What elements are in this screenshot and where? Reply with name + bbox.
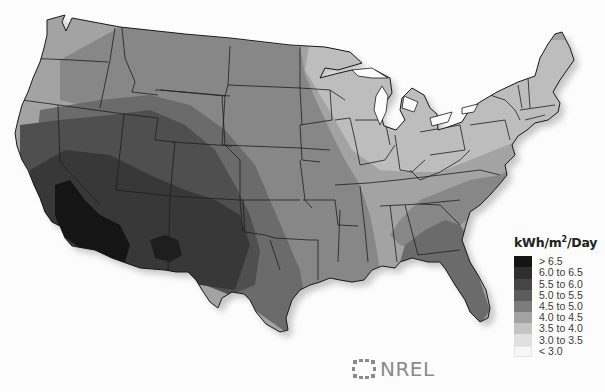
legend-swatch (514, 279, 532, 290)
legend-swatch (514, 267, 532, 278)
legend-label: 3.0 to 3.5 (539, 335, 583, 346)
legend-label: < 3.0 (539, 346, 563, 357)
legend-row: 3.0 to 3.5 (514, 334, 605, 345)
legend-title-suffix: /Day (567, 235, 597, 250)
nrel-logo-text: NREL (380, 357, 435, 381)
legend-swatch (514, 346, 532, 357)
legend: kWh/m2/Day > 6.5 6.0 to 6.5 5.5 to 6.0 5… (514, 235, 605, 357)
legend-swatch (514, 323, 532, 334)
legend-rows: > 6.5 6.0 to 6.5 5.5 to 6.0 5.0 to 5.5 4… (514, 256, 605, 357)
legend-label: 5.5 to 6.0 (539, 279, 583, 290)
legend-row: < 3.0 (514, 346, 605, 357)
legend-title: kWh/m2/Day (514, 235, 605, 250)
legend-swatch (514, 301, 532, 312)
legend-label: 3.5 to 4.0 (539, 323, 583, 334)
nrel-sun-icon (352, 359, 376, 379)
legend-row: 3.5 to 4.0 (514, 323, 605, 334)
legend-swatch (514, 334, 532, 345)
legend-swatch (514, 312, 532, 323)
legend-label: 6.0 to 6.5 (539, 267, 583, 278)
legend-row: 6.0 to 6.5 (514, 267, 605, 278)
legend-swatch (514, 290, 532, 301)
nrel-logo: NREL (352, 357, 435, 381)
legend-title-prefix: kWh/m (514, 235, 562, 250)
legend-swatch (514, 256, 532, 267)
